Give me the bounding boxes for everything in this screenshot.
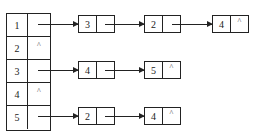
head-row-2: 2 ^ xyxy=(7,37,50,60)
null-pointer-icon: ^ xyxy=(238,17,242,26)
pointer-cell xyxy=(28,106,50,129)
null-pointer-icon: ^ xyxy=(170,109,174,118)
arrow-icon xyxy=(38,24,78,25)
arrow-icon xyxy=(38,70,78,71)
head-row-4: 4 ^ xyxy=(7,83,50,106)
pointer-cell xyxy=(28,14,50,36)
vertex-label: 1 xyxy=(7,14,28,36)
pointer-cell xyxy=(28,60,50,82)
head-row-3: 3 xyxy=(7,60,50,83)
list-node: 4 ^ xyxy=(212,15,249,33)
node-value: 4 xyxy=(79,62,97,78)
null-pointer-cell: ^ xyxy=(163,108,180,124)
head-row-5: 5 xyxy=(7,106,50,129)
vertex-label: 3 xyxy=(7,60,28,82)
arrow-icon xyxy=(105,116,144,117)
null-pointer-cell: ^ xyxy=(163,62,180,78)
null-pointer-cell: ^ xyxy=(28,37,50,59)
list-node: 4 ^ xyxy=(144,107,181,125)
arrow-icon xyxy=(105,70,144,71)
list-node: 5 ^ xyxy=(144,61,181,79)
vertex-label: 4 xyxy=(7,83,28,105)
null-pointer-cell: ^ xyxy=(231,16,248,32)
vertex-label: 5 xyxy=(7,106,28,129)
null-pointer-icon: ^ xyxy=(170,63,174,72)
arrow-icon xyxy=(105,24,144,25)
node-value: 2 xyxy=(145,16,163,32)
node-value: 4 xyxy=(213,16,231,32)
null-pointer-icon: ^ xyxy=(37,41,41,50)
null-pointer-cell: ^ xyxy=(28,83,50,105)
arrow-icon xyxy=(172,24,212,25)
node-value: 2 xyxy=(79,108,97,124)
node-value: 4 xyxy=(145,108,163,124)
node-value: 3 xyxy=(79,16,97,32)
arrow-icon xyxy=(38,116,78,117)
null-pointer-icon: ^ xyxy=(37,87,41,96)
head-row-1: 1 xyxy=(7,14,50,37)
node-value: 5 xyxy=(145,62,163,78)
vertex-head-table: 1 2 ^ 3 4 ^ 5 xyxy=(6,13,51,131)
vertex-label: 2 xyxy=(7,37,28,59)
